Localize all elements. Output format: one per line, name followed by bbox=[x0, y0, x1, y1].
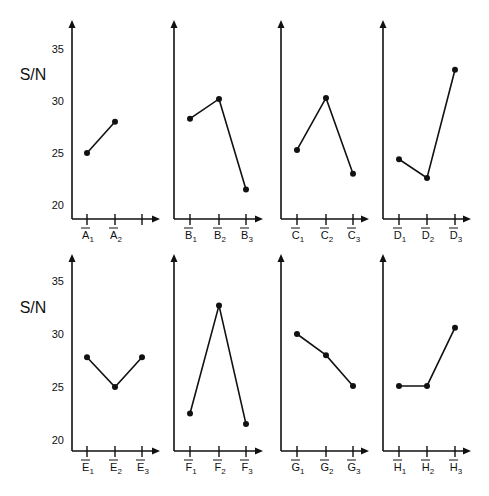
panel-factor-c: C1C2C3 bbox=[278, 20, 370, 244]
data-point bbox=[243, 186, 249, 192]
x-tick-label: B3 bbox=[241, 229, 253, 244]
x-axis-arrow-icon bbox=[255, 448, 263, 455]
x-tick-label: B1 bbox=[185, 229, 197, 244]
x-tick-label: E1 bbox=[82, 461, 94, 476]
x-tick-label: H1 bbox=[394, 461, 407, 476]
x-axis-arrow-icon bbox=[361, 448, 369, 455]
panel-factor-b: B1B2B3 bbox=[171, 20, 264, 244]
data-point bbox=[187, 411, 193, 417]
data-point bbox=[84, 150, 90, 156]
y-tick-label: 20 bbox=[52, 434, 64, 446]
series-line bbox=[87, 357, 142, 387]
x-tick-label: A2 bbox=[110, 229, 122, 244]
data-point bbox=[350, 383, 356, 389]
data-point bbox=[294, 147, 300, 153]
data-point bbox=[452, 325, 458, 331]
series-line bbox=[297, 334, 353, 386]
series-line bbox=[190, 305, 246, 424]
data-point bbox=[216, 302, 222, 308]
y-tick-label: 35 bbox=[52, 43, 64, 55]
data-point bbox=[323, 352, 329, 358]
data-point bbox=[243, 421, 249, 427]
x-tick-label: C1 bbox=[292, 229, 305, 244]
data-point bbox=[396, 156, 402, 162]
y-tick-label: 30 bbox=[52, 328, 64, 340]
data-point bbox=[294, 331, 300, 337]
series-line bbox=[87, 122, 115, 153]
x-axis-arrow-icon bbox=[152, 448, 160, 455]
x-tick-label: E3 bbox=[137, 461, 149, 476]
x-axis-arrow-icon bbox=[255, 216, 263, 223]
panel-factor-a: A1A2 bbox=[69, 20, 161, 244]
y-axis-arrow-icon bbox=[380, 254, 387, 262]
data-point bbox=[187, 116, 193, 122]
data-point bbox=[84, 354, 90, 360]
panel-factor-h: H1H2H3 bbox=[380, 254, 472, 476]
y-axis-arrow-icon bbox=[171, 20, 178, 28]
y-tick-label: 25 bbox=[52, 381, 64, 393]
y-axis-arrow-icon bbox=[278, 254, 285, 262]
x-tick-label: H2 bbox=[422, 461, 435, 476]
x-tick-label: C2 bbox=[321, 229, 334, 244]
x-tick-label: F3 bbox=[241, 461, 253, 476]
data-point bbox=[323, 95, 329, 101]
y-axis-arrow-icon bbox=[380, 20, 387, 28]
x-axis-arrow-icon bbox=[463, 448, 471, 455]
panel-factor-g: G1G2G3 bbox=[278, 254, 370, 476]
panel-factor-d: D1D2D3 bbox=[380, 20, 472, 244]
x-tick-label: F1 bbox=[185, 461, 197, 476]
x-tick-label: B2 bbox=[214, 229, 226, 244]
y-axis-title: S/N bbox=[20, 299, 47, 316]
data-point bbox=[139, 354, 145, 360]
data-point bbox=[112, 384, 118, 390]
data-point bbox=[216, 96, 222, 102]
series-line bbox=[297, 98, 353, 174]
x-tick-label: G3 bbox=[347, 461, 361, 476]
data-point bbox=[424, 383, 430, 389]
factor-effects-chart: 20253035S/N20253035S/NA1A2B1B2B3C1C2C3D1… bbox=[0, 0, 489, 496]
data-point bbox=[112, 119, 118, 125]
x-axis-arrow-icon bbox=[152, 216, 160, 223]
y-axis-arrow-icon bbox=[69, 254, 76, 262]
x-tick-label: G2 bbox=[320, 461, 334, 476]
x-tick-label: C3 bbox=[348, 229, 361, 244]
y-axis-labels-row-1: 20253035S/N bbox=[20, 43, 64, 211]
x-tick-label: D2 bbox=[422, 229, 435, 244]
panel-factor-f: F1F2F3 bbox=[171, 254, 264, 476]
x-axis-arrow-icon bbox=[463, 216, 471, 223]
x-tick-label: A1 bbox=[82, 229, 94, 244]
y-axis-arrow-icon bbox=[278, 20, 285, 28]
y-tick-label: 25 bbox=[52, 147, 64, 159]
x-tick-label: G1 bbox=[291, 461, 305, 476]
series-line bbox=[190, 99, 246, 189]
series-line bbox=[399, 70, 455, 178]
panel-factor-e: E1E2E3 bbox=[69, 254, 161, 476]
series-line bbox=[399, 328, 455, 386]
x-tick-label: D1 bbox=[394, 229, 407, 244]
y-axis-arrow-icon bbox=[171, 254, 178, 262]
y-axis-arrow-icon bbox=[69, 20, 76, 28]
y-axis-title: S/N bbox=[20, 66, 47, 83]
y-tick-label: 30 bbox=[52, 95, 64, 107]
x-tick-label: D3 bbox=[450, 229, 463, 244]
y-axis-labels-row-2: 20253035S/N bbox=[20, 275, 64, 446]
x-tick-label: F2 bbox=[214, 461, 226, 476]
x-tick-label: H3 bbox=[450, 461, 463, 476]
data-point bbox=[452, 67, 458, 73]
y-tick-label: 35 bbox=[52, 275, 64, 287]
x-axis-arrow-icon bbox=[361, 216, 369, 223]
x-tick-label: E2 bbox=[110, 461, 122, 476]
data-point bbox=[396, 383, 402, 389]
data-point bbox=[424, 175, 430, 181]
y-tick-label: 20 bbox=[52, 199, 64, 211]
data-point bbox=[350, 171, 356, 177]
